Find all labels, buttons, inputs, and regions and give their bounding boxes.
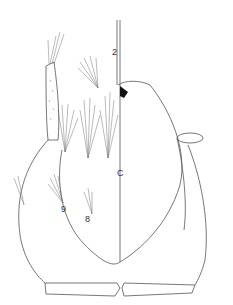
seta-left-side: [14, 176, 24, 205]
head-capsule-left: [19, 140, 48, 283]
frontal-setae: [58, 56, 118, 158]
seta-9: [48, 174, 63, 203]
antenna-tip-setae: [48, 32, 64, 64]
antenna-socket-right: [177, 133, 203, 143]
seta-8: [84, 188, 92, 214]
left-lobe: [60, 150, 120, 264]
black-mark: [120, 86, 128, 98]
collar-right: [122, 283, 195, 296]
label-seta-8: 8: [85, 215, 90, 224]
larval-head-drawing: [0, 0, 233, 305]
collar-left: [45, 283, 120, 296]
label-clypeus: C: [117, 169, 124, 178]
antenna-spicules: [49, 80, 54, 120]
right-lobe: [118, 81, 182, 262]
label-seta-2: 2: [112, 48, 117, 57]
head-capsule-right: [188, 145, 206, 285]
antenna-left: [46, 62, 59, 140]
label-seta-9: 9: [61, 205, 66, 214]
